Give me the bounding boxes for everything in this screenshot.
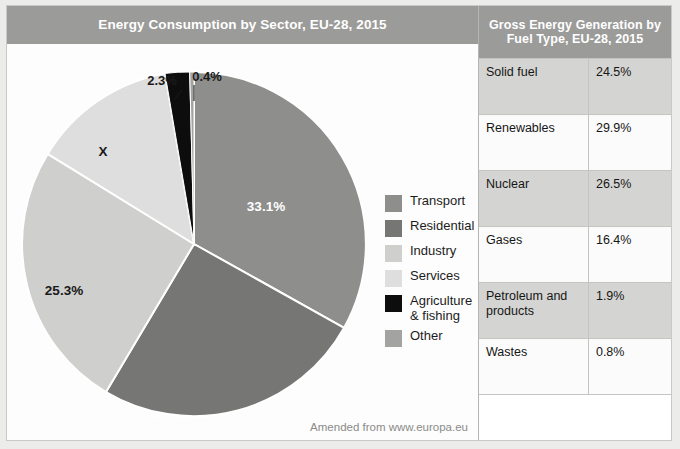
legend-label-other: Other (410, 329, 443, 344)
table-cell-value: 0.8% (588, 339, 671, 395)
legend-label-residential: Residential (410, 219, 474, 234)
pie-chart-title: Energy Consumption by Sector, EU-28, 201… (7, 6, 478, 44)
table-cell-value: 24.5% (588, 59, 671, 115)
pie-chart: 33.1% 25.4% 25.3% X 2.3% 0.4% (17, 71, 365, 419)
figure-root: Energy Consumption by Sector, EU-28, 201… (0, 0, 680, 449)
table-cell-fuel: Solid fuel (479, 59, 588, 115)
table-cell-value: 29.9% (588, 115, 671, 171)
pie-label-transport: 33.1% (247, 199, 285, 214)
pie-label-industry: 25.3% (45, 283, 83, 298)
legend-swatch-residential-icon (385, 220, 402, 237)
fuel-table-title: Gross Energy Generation by Fuel Type, EU… (479, 6, 671, 58)
figure-card: Energy Consumption by Sector, EU-28, 201… (6, 5, 672, 441)
table-cell-value: 1.9% (588, 283, 671, 339)
pie-chart-body: 33.1% 25.4% 25.3% X 2.3% 0.4% Tra (7, 44, 478, 440)
table-cell-fuel: Nuclear (479, 171, 588, 227)
legend-label-services: Services (410, 269, 460, 284)
legend-item-residential: Residential (385, 219, 485, 239)
pie-label-other: 0.4% (192, 71, 222, 84)
table-cell-fuel: Petroleum and products (479, 283, 588, 339)
legend-swatch-other-icon (385, 330, 402, 347)
legend-swatch-industry-icon (385, 245, 402, 262)
legend-item-industry: Industry (385, 244, 485, 264)
legend-swatch-services-icon (385, 270, 402, 287)
pie-label-services-unknown: X (98, 144, 107, 159)
fuel-table-panel: Gross Energy Generation by Fuel Type, EU… (479, 6, 671, 440)
table-row: Solid fuel 24.5% (479, 59, 671, 115)
pie-label-agriculture-fishing: 2.3% (147, 73, 177, 88)
legend-item-services: Services (385, 269, 485, 289)
pie-legend: Transport Residential Industry Services (385, 194, 485, 354)
table-cell-value: 26.5% (588, 171, 671, 227)
legend-swatch-transport-icon (385, 195, 402, 212)
table-row: Gases 16.4% (479, 227, 671, 283)
table-row: Nuclear 26.5% (479, 171, 671, 227)
table-row: Petroleum and products 1.9% (479, 283, 671, 339)
legend-item-other: Other (385, 329, 485, 349)
source-credit: Amended from www.europa.eu (310, 421, 468, 433)
table-cell-fuel: Wastes (479, 339, 588, 395)
pie-label-residential: 25.4% (149, 412, 187, 419)
table-cell-fuel: Gases (479, 227, 588, 283)
pie-chart-panel: Energy Consumption by Sector, EU-28, 201… (7, 6, 479, 440)
fuel-table: Solid fuel 24.5% Renewables 29.9% Nuclea… (479, 58, 671, 395)
legend-item-agriculture-fishing: Agriculture & fishing (385, 294, 485, 324)
legend-item-transport: Transport (385, 194, 485, 214)
table-row: Renewables 29.9% (479, 115, 671, 171)
pie-chart-svg: 33.1% 25.4% 25.3% X 2.3% 0.4% (17, 71, 365, 419)
legend-label-transport: Transport (410, 194, 465, 209)
table-cell-fuel: Renewables (479, 115, 588, 171)
table-row: Wastes 0.8% (479, 339, 671, 395)
legend-swatch-agriculture-fishing-icon (385, 295, 402, 312)
legend-label-agriculture-fishing: Agriculture & fishing (410, 294, 472, 323)
legend-label-industry: Industry (410, 244, 456, 259)
table-cell-value: 16.4% (588, 227, 671, 283)
